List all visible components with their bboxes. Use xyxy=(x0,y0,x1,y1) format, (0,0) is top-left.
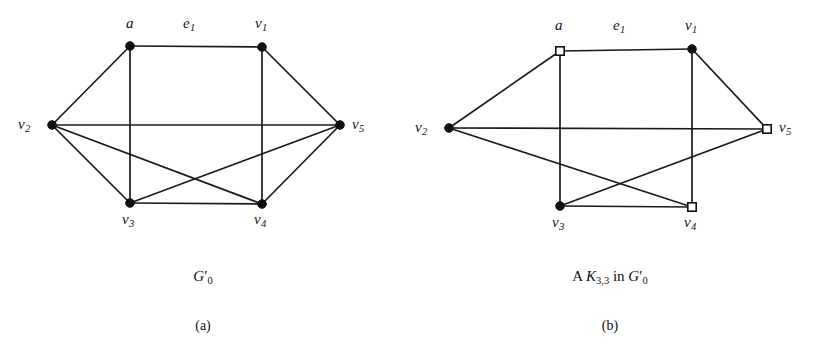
graph-panel-b: av1v2v5v3v4 e1 A K3,3 in G′0 (b) xyxy=(407,0,813,356)
graph-edge-v4-v5 xyxy=(262,125,340,204)
vertex-label-a: a xyxy=(555,18,563,33)
graph-vertex-v2 xyxy=(445,124,454,133)
graph-vertex-v5 xyxy=(336,121,345,130)
vertex-label-v5: v5 xyxy=(779,120,791,138)
graph-edge-a-v1 xyxy=(130,46,262,47)
graph-edge-a-v2 xyxy=(52,46,130,125)
vertex-label-v3: v3 xyxy=(122,212,134,230)
panel-sublabel-b: (b) xyxy=(407,318,813,334)
vertex-label-v2: v2 xyxy=(415,120,427,138)
graph-edge-v2-v5 xyxy=(449,128,767,129)
graph-drawing-b xyxy=(407,0,813,250)
graph-edge-v3-v5 xyxy=(560,129,767,206)
vertex-label-v4: v4 xyxy=(684,215,696,233)
graph-edge-v2-v4 xyxy=(449,128,692,207)
graph-vertex-a xyxy=(126,42,135,51)
graph-edge-v3-v4 xyxy=(560,206,692,207)
edge-label-e1-b: e1 xyxy=(613,18,625,36)
vertex-label-v2: v2 xyxy=(18,117,30,135)
vertex-label-v1: v1 xyxy=(255,16,267,34)
panel-sublabel-a: (a) xyxy=(0,318,406,334)
vertex-label-v5: v5 xyxy=(352,117,364,135)
graph-vertex-v1 xyxy=(688,45,697,54)
graph-vertex-v1 xyxy=(258,43,267,52)
vertex-label-v4: v4 xyxy=(254,212,266,230)
graph-vertex-v3 xyxy=(556,202,565,211)
graph-edge-a-v2 xyxy=(449,51,560,128)
figure-root: av1v2v5v3v4 e1 G′0 (a) av1v2v5v3v4 e1 A … xyxy=(0,0,813,356)
graph-edge-v1-v5 xyxy=(692,49,767,129)
graph-vertex-a xyxy=(556,47,564,55)
graph-vertex-v4 xyxy=(258,200,267,209)
graph-vertex-v5 xyxy=(763,125,771,133)
graph-drawing-a xyxy=(0,0,406,250)
graph-edge-v2-v3 xyxy=(52,125,130,203)
graph-vertex-v3 xyxy=(126,199,135,208)
panel-caption-b: A K3,3 in G′0 xyxy=(407,268,813,286)
graph-edge-v3-v5 xyxy=(130,125,340,203)
graph-edge-v1-v5 xyxy=(262,47,340,125)
graph-edge-v3-v4 xyxy=(130,203,262,204)
vertex-label-v1: v1 xyxy=(685,18,697,36)
graph-edge-a-v1 xyxy=(560,49,692,51)
panel-caption-a: G′0 xyxy=(0,268,406,286)
vertex-label-a: a xyxy=(126,16,134,31)
graph-vertex-v4 xyxy=(688,203,696,211)
graph-panel-a: av1v2v5v3v4 e1 G′0 (a) xyxy=(0,0,406,356)
edge-label-e1-a: e1 xyxy=(183,16,195,34)
graph-vertex-v2 xyxy=(48,121,57,130)
vertex-label-v3: v3 xyxy=(552,215,564,233)
